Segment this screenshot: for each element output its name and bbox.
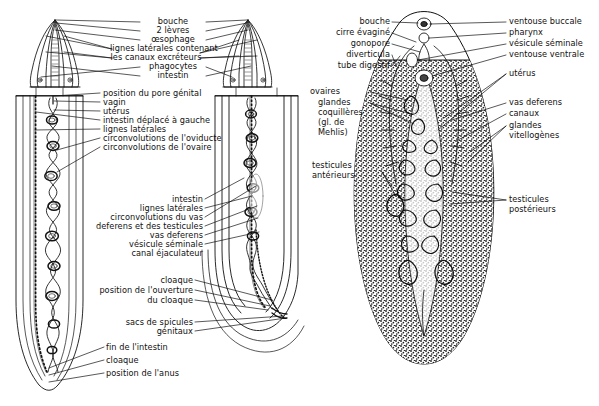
label-glandes-vitellogenes-2: vitellogènes (509, 131, 559, 140)
label-position-de-anus: position de l'anus (106, 369, 179, 378)
label-cirre-evagine: cirre évaginé (300, 28, 390, 37)
label-mehlis: Mehlis) (318, 128, 348, 137)
vitelline-glands-stipple (352, 60, 494, 366)
label-gl-de: (gl. de (318, 118, 344, 127)
label-testicules-anterieurs-2: antérieurs (312, 171, 354, 180)
label-testicules-posterieurs-2: postérieurs (509, 205, 556, 214)
label-pharynx: pharynx (509, 28, 543, 37)
label-cloaque-male: cloaque (63, 276, 193, 285)
label-glandes-coquilleres: glandes (318, 98, 351, 107)
label-bouche-fluke: bouche (300, 17, 390, 26)
label-testicules-posterieurs-1: testicules (509, 195, 549, 204)
label-uterus-fluke: utérus (509, 69, 536, 78)
label-diverticula: diverticula (300, 50, 390, 59)
label-circonvolutions-ovaire: circonvolutions de l'ovaire (103, 143, 212, 152)
label-coquilleres: coquillères (318, 108, 363, 117)
label-genitaux: génitaux (53, 327, 193, 336)
label-canaux: canaux (509, 109, 539, 118)
label-position-ouverture-cloaque-1: position de l'ouverture (53, 286, 193, 295)
label-fin-de-intestin: fin de l'intestin (106, 343, 168, 352)
label-cloaque-tail: cloaque (106, 356, 139, 365)
label-intestin-anterior: intestin (141, 71, 205, 80)
figure-canvas: bouche 2 lèvres œsophage lignes latérale… (0, 0, 599, 406)
label-canal-ejaculateur: canal éjaculateur (63, 249, 203, 258)
label-glandes-vitellogenes-1: glandes (509, 121, 542, 130)
label-tube-digestif: tube digestif (300, 61, 390, 70)
label-vesicule-seminale-fluke: vésicule séminale (509, 39, 583, 48)
nematode-male-body (202, 88, 304, 352)
label-gonopore: gonopore (300, 39, 390, 48)
label-ovaires: ovaires (310, 87, 340, 96)
label-testicules-anterieurs-1: testicules (312, 161, 352, 170)
label-ventouse-ventrale: ventouse ventrale (509, 50, 584, 59)
label-position-ouverture-cloaque-2: du cloaque (53, 296, 193, 305)
label-ventouse-buccale: ventouse buccale (509, 17, 582, 26)
label-vas-deferens-fluke: vas deferens (509, 98, 562, 107)
